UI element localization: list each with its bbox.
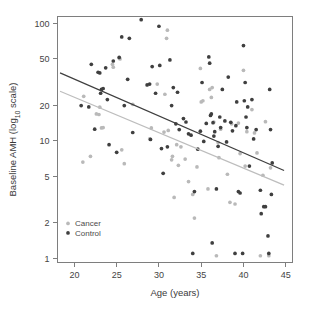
data-point-cancer	[242, 68, 246, 72]
y-tick-label: 1	[44, 254, 49, 264]
data-point-control	[264, 205, 268, 209]
data-point-control	[215, 187, 219, 191]
data-point-cancer	[175, 143, 179, 147]
data-point-control	[89, 62, 93, 66]
data-point-control	[87, 105, 91, 109]
y-tick-label: 50	[39, 54, 49, 64]
data-point-control	[171, 86, 175, 90]
data-point-control	[241, 252, 245, 256]
data-point-cancer	[233, 202, 237, 206]
data-point-control	[131, 131, 135, 135]
data-point-control	[148, 82, 152, 86]
x-tick-label: 20	[69, 270, 79, 280]
data-point-cancer	[172, 196, 176, 200]
y-axis-ticks: 125102050100	[34, 19, 57, 264]
data-point-cancer	[264, 120, 268, 124]
y-tick-label: 20	[39, 101, 49, 111]
data-point-control	[202, 140, 206, 144]
data-point-cancer	[177, 163, 181, 167]
data-point-control	[243, 81, 247, 85]
data-point-cancer	[243, 164, 247, 168]
legend-marker-cancer	[66, 222, 70, 226]
data-point-control	[219, 126, 223, 130]
data-point-control	[182, 117, 186, 121]
data-point-cancer	[120, 148, 124, 152]
legend-label-control: Control	[75, 229, 101, 238]
legend-marker-control	[66, 231, 70, 235]
data-point-cancer	[210, 96, 214, 100]
x-tick-label: 45	[281, 270, 291, 280]
data-point-control	[126, 77, 130, 81]
data-point-cancer	[253, 131, 257, 135]
data-point-control	[242, 44, 246, 48]
data-point-control	[117, 56, 121, 60]
data-point-control	[213, 130, 217, 134]
data-point-control	[93, 127, 97, 131]
data-point-control	[191, 252, 195, 256]
data-point-control	[101, 87, 105, 91]
data-point-cancer	[226, 172, 230, 176]
data-point-control	[166, 145, 170, 149]
data-point-control	[211, 121, 215, 125]
chart-legend: CancerControl	[66, 219, 101, 238]
data-point-cancer	[171, 154, 175, 158]
data-point-control	[223, 119, 227, 123]
data-point-control	[248, 164, 252, 168]
data-point-cancer	[250, 108, 254, 112]
data-point-control	[238, 191, 242, 195]
data-point-cancer	[82, 94, 86, 98]
data-point-control	[250, 98, 254, 102]
data-point-cancer	[81, 160, 85, 164]
x-axis-ticks: 202530354045	[69, 263, 290, 280]
data-point-control	[269, 128, 273, 132]
data-point-control	[210, 112, 214, 116]
data-point-control	[226, 75, 230, 79]
chart-figure: 202530354045 125102050100 CancerControl …	[0, 0, 311, 316]
data-point-control	[268, 88, 272, 92]
data-point-control	[208, 61, 212, 65]
y-tick-label: 10	[39, 136, 49, 146]
data-point-control	[233, 252, 237, 256]
data-point-cancer	[111, 65, 115, 69]
data-point-control	[149, 138, 153, 142]
data-point-control	[168, 58, 172, 62]
data-point-cancer	[163, 92, 167, 96]
data-point-control	[246, 105, 250, 109]
data-point-control	[229, 121, 233, 125]
data-point-cancer	[89, 154, 93, 158]
data-point-control	[244, 115, 248, 119]
data-point-cancer	[193, 216, 197, 220]
data-point-control	[189, 133, 193, 137]
data-points	[79, 18, 274, 258]
data-point-control	[235, 100, 239, 104]
x-tick-label: 40	[238, 270, 248, 280]
data-point-control	[79, 104, 83, 108]
data-point-cancer	[255, 151, 259, 155]
data-point-control	[170, 104, 174, 108]
data-point-control	[254, 128, 258, 132]
data-point-control	[231, 129, 235, 133]
data-point-control	[259, 188, 263, 192]
data-point-control	[176, 90, 180, 94]
data-point-cancer	[179, 145, 183, 149]
y-tick-label: 5	[44, 172, 49, 182]
data-point-control	[150, 65, 154, 69]
data-point-control	[259, 212, 263, 216]
data-point-cancer	[215, 254, 219, 258]
data-point-control	[225, 140, 229, 144]
y-tick-label: 2	[44, 218, 49, 228]
data-point-cancer	[245, 130, 249, 134]
data-point-control	[267, 252, 271, 256]
data-point-control	[199, 129, 203, 133]
data-point-control	[220, 88, 224, 92]
data-point-control	[212, 134, 216, 138]
data-point-cancer	[187, 180, 191, 184]
data-point-cancer	[122, 162, 126, 166]
data-point-control	[160, 147, 164, 151]
legend-label-cancer: Cancer	[75, 219, 101, 228]
y-axis-title: Baseline AMH (log10 scale)	[7, 83, 21, 197]
data-point-cancer	[195, 165, 199, 169]
data-point-control	[111, 59, 115, 63]
data-point-cancer	[101, 126, 105, 130]
data-point-control	[184, 120, 188, 124]
